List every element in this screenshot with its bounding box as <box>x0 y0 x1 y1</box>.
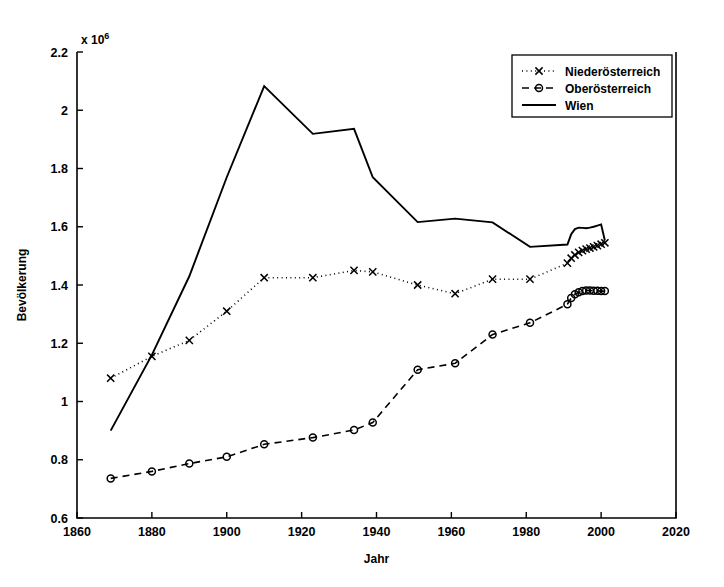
x-tick-label-2020: 2020 <box>662 525 690 539</box>
x-tick-label-1940: 1940 <box>363 525 391 539</box>
data-point-niederösterreich-1971 <box>489 276 496 283</box>
x-tick-label-1920: 1920 <box>288 525 316 539</box>
x-axis-ticks <box>77 512 676 518</box>
population-chart-figure: 186018801900192019401960198020002020 0.6… <box>0 0 724 587</box>
data-point-niederösterreich-1981 <box>526 276 533 283</box>
y-tick-label-1: 1 <box>61 395 68 409</box>
series-line-wien <box>111 86 605 431</box>
y-tick-label-2.2: 2.2 <box>51 46 68 60</box>
legend-label-oberösterreich: Oberösterreich <box>565 82 651 96</box>
y-tick-label-0.8: 0.8 <box>51 453 68 467</box>
x-tick-label-1860: 1860 <box>63 525 91 539</box>
data-point-niederösterreich-1910 <box>261 274 268 281</box>
y-tick-label-0.6: 0.6 <box>51 512 68 526</box>
data-point-niederösterreich-1923 <box>309 274 316 281</box>
x-tick-label-1880: 1880 <box>138 525 166 539</box>
data-point-niederösterreich-1869 <box>107 375 114 382</box>
series-wien <box>111 86 605 431</box>
x-tick-label-1960: 1960 <box>437 525 465 539</box>
axes-frame <box>77 52 676 518</box>
x-tick-label-1900: 1900 <box>213 525 241 539</box>
legend-label-niederösterreich: Niederösterreich <box>565 65 660 79</box>
y-tick-label-1.2: 1.2 <box>51 337 68 351</box>
svg-text:x 106: x 106 <box>81 31 109 47</box>
data-point-niederösterreich-1939 <box>369 268 376 275</box>
chart-legend: NiederösterreichOberösterreichWien <box>512 55 672 117</box>
y-tick-label-1.4: 1.4 <box>51 279 68 293</box>
x-axis-label: Jahr <box>364 552 390 566</box>
series-line-niederösterreich <box>111 243 605 378</box>
data-series-group <box>107 86 608 482</box>
y-tick-label-1.8: 1.8 <box>51 162 68 176</box>
data-point-niederösterreich-1890 <box>186 337 193 344</box>
y-axis-label: Bevölkerung <box>15 249 29 322</box>
y-tick-label-1.6: 1.6 <box>51 220 68 234</box>
legend-label-wien: Wien <box>565 99 594 113</box>
data-point-niederösterreich-1961 <box>452 290 459 297</box>
data-point-niederösterreich-1993 <box>571 251 578 258</box>
y-axis-exponent: x 106 <box>81 31 109 47</box>
data-point-niederösterreich-1991 <box>564 260 571 267</box>
y-axis-ticks <box>77 52 83 518</box>
x-axis-tick-labels: 186018801900192019401960198020002020 <box>63 525 690 539</box>
series-niederösterreich <box>107 239 608 382</box>
x-tick-label-2000: 2000 <box>587 525 615 539</box>
chart-canvas: 186018801900192019401960198020002020 0.6… <box>0 0 724 587</box>
x-tick-label-1980: 1980 <box>512 525 540 539</box>
series-oberösterreich <box>107 287 608 482</box>
y-tick-label-2: 2 <box>61 104 68 118</box>
y-axis-tick-labels: 0.60.811.21.41.61.822.2 <box>51 46 68 526</box>
data-point-niederösterreich-1900 <box>223 308 230 315</box>
